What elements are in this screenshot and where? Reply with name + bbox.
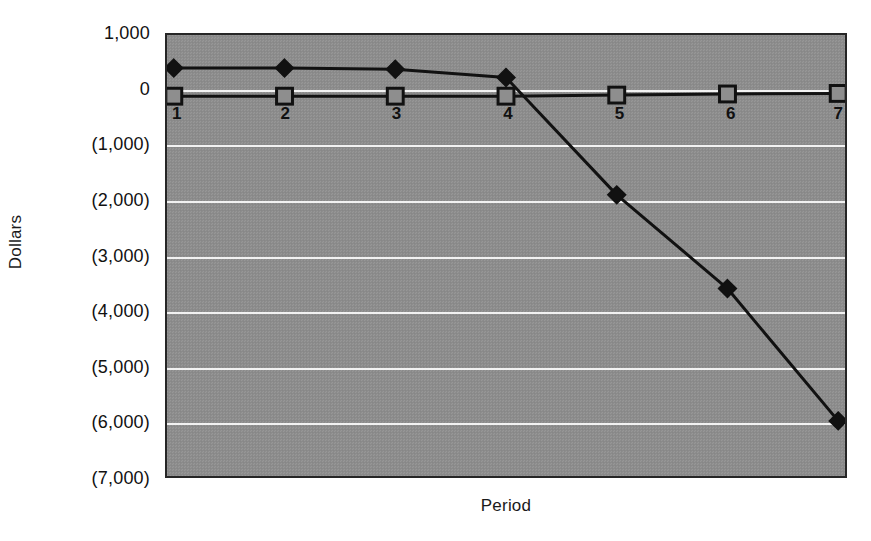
data-point-marker-diamond xyxy=(165,59,183,77)
plot-area: 1234567 xyxy=(165,33,847,478)
x-axis-tick-label: 4 xyxy=(503,105,512,122)
y-axis-tick-labels: 1,0000(1,000)(2,000)(3,000)(4,000)(5,000… xyxy=(0,0,158,541)
x-axis-tick-label: 7 xyxy=(833,105,842,122)
x-axis-tick-label: 6 xyxy=(726,105,735,122)
data-point-marker-square xyxy=(830,86,846,102)
y-axis-tick-label: 1,000 xyxy=(0,24,150,42)
y-axis-tick-label: (5,000) xyxy=(0,358,150,376)
data-point-marker-square xyxy=(720,86,736,102)
data-point-marker-square xyxy=(387,88,403,104)
x-axis-tick-label: 2 xyxy=(280,105,289,122)
x-axis-tick-label: 5 xyxy=(615,105,624,122)
y-axis-tick-label: (7,000) xyxy=(0,469,150,487)
data-point-marker-square xyxy=(498,88,514,104)
data-point-marker-square xyxy=(277,88,293,104)
y-axis-tick-label: (4,000) xyxy=(0,302,150,320)
y-axis-tick-label: (1,000) xyxy=(0,135,150,153)
x-axis-title: Period xyxy=(165,496,847,516)
series-layer xyxy=(167,35,845,476)
line-chart: Dollars 1,0000(1,000)(2,000)(3,000)(4,00… xyxy=(0,0,871,541)
y-axis-tick-label: (2,000) xyxy=(0,191,150,209)
data-point-marker-diamond xyxy=(386,60,404,78)
y-axis-tick-label: (3,000) xyxy=(0,247,150,265)
y-axis-tick-label: 0 xyxy=(0,80,150,98)
data-point-marker-square xyxy=(166,88,182,104)
data-point-marker-diamond xyxy=(276,59,294,77)
data-point-marker-square xyxy=(609,87,625,103)
x-axis-tick-label: 1 xyxy=(172,105,181,122)
x-axis-tick-label: 3 xyxy=(392,105,401,122)
y-axis-tick-label: (6,000) xyxy=(0,413,150,431)
